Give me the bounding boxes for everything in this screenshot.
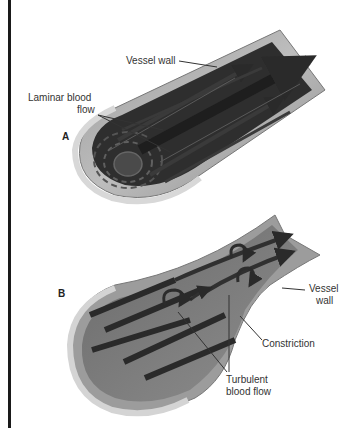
- panel-a-letter: A: [62, 131, 69, 142]
- panel-a-vessel: [75, 30, 325, 201]
- constriction-leader: [240, 316, 262, 340]
- panel-b-vessel: [70, 215, 320, 413]
- vessel-wall-label-b-line1: Vessel: [309, 283, 338, 295]
- constriction-label: Constriction: [262, 338, 315, 350]
- turbulent-flow-label-line1: Turbulent: [226, 374, 268, 386]
- panel-b-letter: B: [58, 288, 65, 299]
- vessel-wall-label-a: Vessel wall: [126, 55, 175, 67]
- laminar-flow-label-line1: Laminar blood: [28, 92, 91, 104]
- vessel-wall-label-b-line2: wall: [316, 295, 333, 307]
- turbulent-flow-label-line2: blood flow: [226, 386, 271, 398]
- blood-flow-illustration: [0, 0, 358, 428]
- laminar-flow-label-line2: flow: [77, 104, 95, 116]
- vessel-wall-leader-b: [282, 288, 305, 290]
